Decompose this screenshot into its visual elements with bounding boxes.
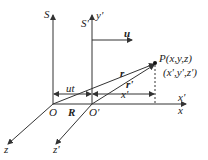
vector-R-label: R [67, 106, 75, 118]
point-prime-coords: (x',y',z') [163, 66, 197, 79]
z-prime-axis-label: z' [52, 143, 60, 155]
origin-o-label: O [49, 106, 57, 118]
z-axis-label: z [3, 143, 9, 155]
z-axis [8, 104, 53, 144]
point-p-label: P(x,y,z) [158, 52, 192, 65]
ut-label: ut [66, 82, 76, 94]
vector-r-label: r [120, 67, 125, 79]
point-p [153, 61, 157, 65]
y-prime-label: y' [95, 9, 104, 21]
origin-o-prime-label: O' [89, 106, 100, 118]
x-prime-axis-label: x' [177, 91, 186, 103]
velocity-label: u [124, 27, 130, 39]
frame-s-label: S [44, 8, 50, 20]
reference-frames-diagram: S S' y' u P(x,y,z) (x',y',z') r r' ut x'… [0, 0, 208, 160]
frame-s-prime-label: S' [81, 17, 90, 29]
x-axis-label: x [177, 104, 183, 116]
x-prime-dim-label: x' [120, 88, 129, 100]
